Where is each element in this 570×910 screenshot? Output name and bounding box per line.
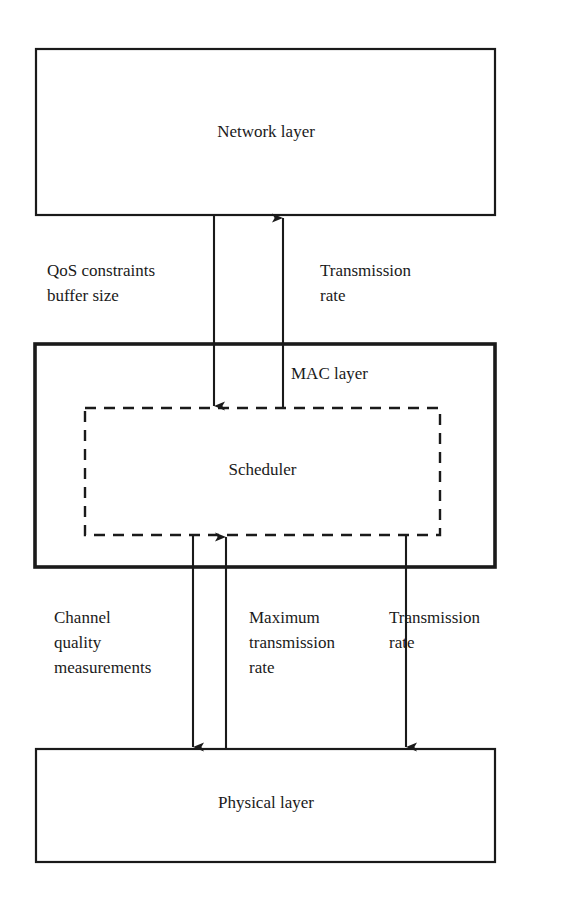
physical-layer-label: Physical layer [36,793,496,813]
arrow-label-line: transmission [249,630,335,655]
arrow-label-channel-quality: Channel quality measurements [54,605,151,680]
arrow-label-line: rate [389,630,480,655]
scheduler-label: Scheduler [85,460,440,480]
arrow-label-line: Channel [54,605,151,630]
arrow-label-qos-constraints: QoS constraints buffer size [47,258,155,308]
arrow-label-line: quality [54,630,151,655]
arrow-label-transmission-rate-up: Transmission rate [320,258,411,308]
arrow-label-line: rate [249,655,335,680]
arrow-label-line: buffer size [47,283,155,308]
arrow-label-line: Transmission [389,605,480,630]
arrow-label-line: measurements [54,655,151,680]
mac-layer-label: MAC layer [291,364,368,384]
arrow-label-line: Transmission [320,258,411,283]
arrow-label-line: rate [320,283,411,308]
arrow-label-line: Maximum [249,605,335,630]
arrow-label-line: QoS constraints [47,258,155,283]
network-layer-label: Network layer [36,122,496,142]
arrow-label-transmission-rate-down: Transmission rate [389,605,480,655]
mac-layer-box-rect [35,344,495,567]
diagram-canvas: Network layer MAC layer Scheduler Physic… [0,0,570,910]
arrow-label-maximum-transmission-rate: Maximum transmission rate [249,605,335,680]
